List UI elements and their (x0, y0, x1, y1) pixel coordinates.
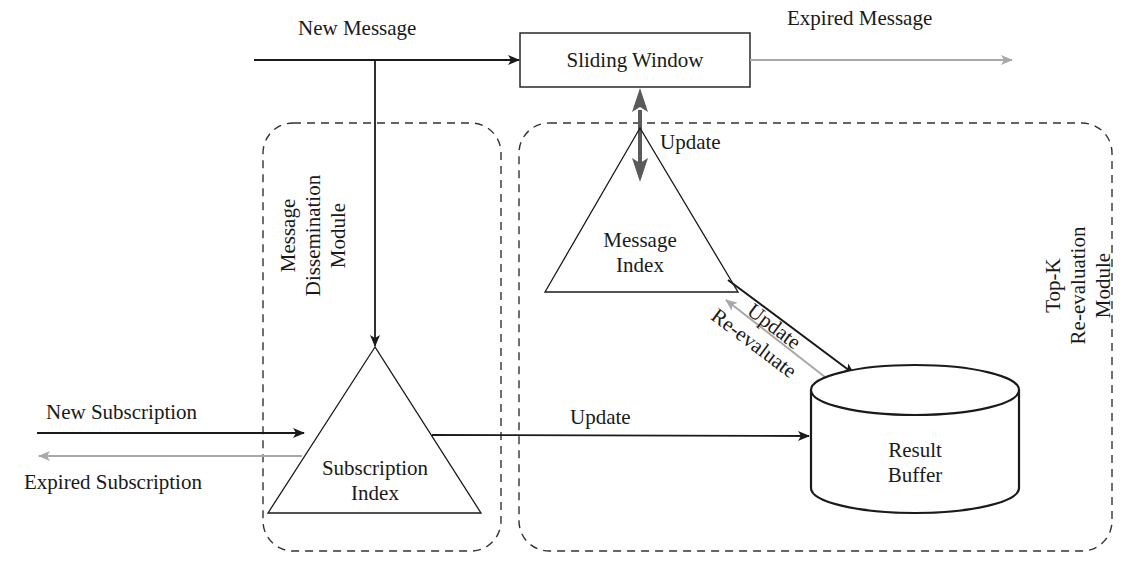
reevaluation-module-line3: Module (1091, 211, 1116, 361)
message-index-label: Message Index (580, 228, 700, 278)
reevaluation-module-line1: Top-K (1041, 211, 1066, 361)
new-message-label: New Message (298, 18, 416, 39)
subscription-index-line2: Index (305, 481, 445, 506)
result-buffer-label: Result Buffer (865, 438, 965, 488)
window-update-arrowhead-up (632, 88, 648, 112)
subscription-update-arrow (432, 435, 809, 436)
expired-message-label: Expired Message (787, 8, 932, 29)
reevaluation-module-label: Top-K Re-evaluation Module (1041, 211, 1116, 361)
reevaluation-module-line2: Re-evaluation (1066, 211, 1091, 361)
sliding-window-label: Sliding Window (520, 48, 750, 73)
subscription-index-line1: Subscription (305, 456, 445, 481)
expired-subscription-label: Expired Subscription (24, 472, 202, 493)
dissemination-module-label: Message Dissemination Module (276, 161, 351, 311)
dissemination-module-line3: Module (326, 161, 351, 311)
new-subscription-label: New Subscription (46, 402, 197, 423)
message-index-line1: Message (580, 228, 700, 253)
subscription-index-label: Subscription Index (305, 456, 445, 506)
message-index-line2: Index (580, 253, 700, 278)
subscription-update-label: Update (570, 407, 631, 428)
result-buffer-line2: Buffer (865, 463, 965, 488)
result-buffer-line1: Result (865, 438, 965, 463)
window-update-label: Update (660, 132, 721, 153)
dissemination-module-line1: Message (276, 161, 301, 311)
dissemination-module-line2: Dissemination (301, 161, 326, 311)
